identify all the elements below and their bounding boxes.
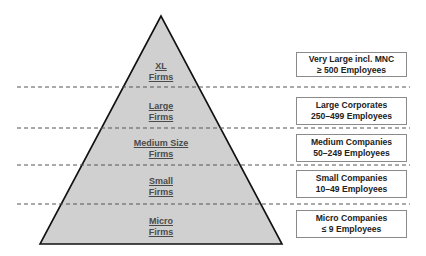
tier-label-line2: Firms (101, 149, 221, 160)
desc-box-small: Small Companies 10–49 Employees (296, 170, 407, 198)
desc-line1: Small Companies (297, 173, 406, 184)
tier-label-line1: Small (101, 176, 221, 187)
desc-line1: Large Corporates (297, 100, 406, 111)
tier-label-line2: Firms (101, 112, 221, 123)
tier-label-small: Small Firms (101, 176, 221, 198)
desc-line2: 250–499 Employees (297, 111, 406, 122)
tier-label-line2: Firms (101, 72, 221, 83)
tier-label-line1: Medium Size (101, 138, 221, 149)
desc-line2: ≤ 9 Employees (297, 224, 406, 235)
tier-label-medium: Medium Size Firms (101, 138, 221, 160)
desc-box-xl: Very Large incl. MNC ≥ 500 Employees (296, 52, 407, 77)
desc-line1: Medium Companies (297, 137, 406, 148)
desc-line2: 50–249 Employees (297, 148, 406, 159)
pyramid-shape (40, 16, 282, 244)
tier-label-line2: Firms (101, 187, 221, 198)
tier-label-line1: XL (101, 61, 221, 72)
desc-line2: 10–49 Employees (297, 184, 406, 195)
desc-line1: Very Large incl. MNC (297, 54, 406, 65)
tier-label-xl: XL Firms (101, 61, 221, 83)
tier-label-line1: Micro (101, 216, 221, 227)
desc-box-medium: Medium Companies 50–249 Employees (296, 134, 407, 162)
tier-label-micro: Micro Firms (101, 216, 221, 238)
desc-box-micro: Micro Companies ≤ 9 Employees (296, 210, 407, 238)
desc-line1: Micro Companies (297, 213, 406, 224)
desc-box-large: Large Corporates 250–499 Employees (296, 97, 407, 125)
tier-label-line1: Large (101, 101, 221, 112)
tier-label-large: Large Firms (101, 101, 221, 123)
desc-line2: ≥ 500 Employees (297, 65, 406, 76)
tier-label-line2: Firms (101, 227, 221, 238)
